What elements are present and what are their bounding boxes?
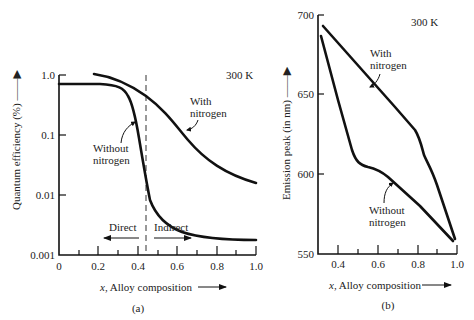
x-tick-label: 0.6: [170, 260, 184, 272]
y-tick-label: 1.0: [41, 69, 55, 81]
chart-b: 700 650 600 550 0.4 0.6 0.8 1.0 300 K Wi…: [280, 9, 464, 312]
without-nitrogen-label: Without: [369, 204, 405, 216]
direct-label: Direct: [109, 221, 136, 233]
chart-a-x-ticks: [79, 246, 256, 255]
chart-b-x-ticks: [338, 245, 457, 254]
chart-a-x-tick-labels: 0 0.2 0.4 0.6 0.8 1.0: [56, 260, 263, 272]
x-tick-label: 1.0: [450, 258, 464, 270]
with-nitrogen-label: nitrogen: [370, 59, 407, 71]
without-nitrogen-label: Without: [93, 142, 129, 154]
x-tick-label: 0.2: [91, 260, 105, 272]
x-tick-label: 0.8: [411, 258, 425, 270]
y-axis-title-b: Emission peak (in nm) ——▶: [280, 66, 293, 200]
temperature-label: 300 K: [226, 69, 253, 81]
chart-b-x-tick-labels: 0.4 0.6 0.8 1.0: [331, 258, 464, 270]
chart-a: 1.0 0.1 0.01 0.001 0 0.2 0.4 0.6 0.8 1.0: [10, 69, 263, 315]
x-axis-title-b: x, Alloy composition: [328, 279, 421, 291]
x-tick-label: 0.4: [331, 258, 345, 270]
indirect-label: Indirect: [154, 221, 188, 233]
curve-with-nitrogen-a: [94, 74, 256, 183]
panel-label-b: (b): [382, 299, 395, 312]
y-tick-label: 700: [298, 9, 315, 21]
y-axis-title-a: Quantum efficiency (%) ——▶: [10, 70, 23, 210]
x-axis-title-a: x, Alloy composition: [99, 281, 192, 293]
figure: 1.0 0.1 0.01 0.001 0 0.2 0.4 0.6 0.8 1.0: [0, 0, 474, 320]
without-nitrogen-label: nitrogen: [369, 216, 406, 228]
y-tick-label: 0.001: [30, 249, 55, 261]
with-nitrogen-pointer: [187, 120, 198, 130]
x-tick-label: 0.8: [210, 260, 224, 272]
y-tick-label: 650: [298, 88, 315, 100]
with-nitrogen-label: With: [370, 47, 392, 59]
with-nitrogen-label: With: [190, 95, 212, 107]
y-tick-label: 0.01: [36, 189, 55, 201]
x-tick-label: 1.0: [249, 260, 263, 272]
y-tick-label: 0.1: [41, 129, 55, 141]
x-tick-label: 0.6: [371, 258, 385, 270]
chart-b-y-tick-labels: 700 650 600 550: [298, 9, 315, 260]
with-nitrogen-label: nitrogen: [190, 107, 227, 119]
y-tick-label: 600: [298, 168, 315, 180]
chart-a-y-tick-labels: 1.0 0.1 0.01 0.001: [30, 69, 55, 261]
without-nitrogen-pointer: [384, 183, 393, 203]
without-nitrogen-pointer: [121, 122, 135, 143]
without-nitrogen-label: nitrogen: [93, 154, 130, 166]
x-tick-label: 0: [56, 260, 62, 272]
x-tick-label: 0.4: [131, 260, 145, 272]
y-tick-label: 550: [298, 248, 315, 260]
chart-a-y-ticks: [59, 75, 66, 195]
temperature-label: 300 K: [411, 16, 438, 28]
panel-label-a: (a): [132, 302, 145, 315]
